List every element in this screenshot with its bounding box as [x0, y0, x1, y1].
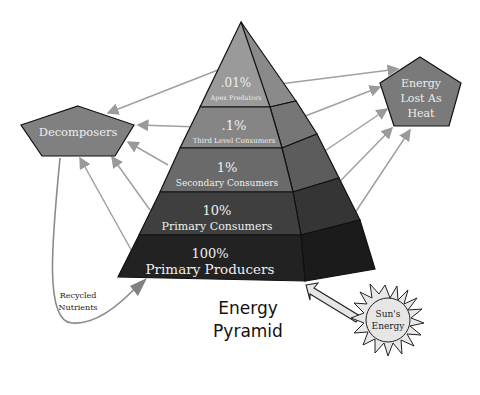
recycled-arrowhead: [130, 278, 147, 296]
sun-energy-arrow: [306, 283, 360, 322]
sun-icon: [351, 284, 424, 356]
level-3-percent: 1%: [217, 160, 238, 175]
level-3-label: Secondary Consumers: [176, 178, 279, 188]
decomposers-label: Decomposers: [39, 125, 118, 139]
sun-label-line1: Sun's: [376, 309, 401, 319]
level-2-label: Third Level Consumers: [193, 137, 276, 145]
pyramid: [118, 22, 375, 281]
recycled-line1: Recycled: [60, 291, 97, 300]
level-5-percent: 100%: [191, 246, 228, 261]
level-1-label: Apex Predators: [210, 94, 262, 102]
level-5-label: Primary Producers: [145, 261, 274, 277]
level-4-label: Primary Consumers: [162, 220, 273, 233]
heat-label-line3: Heat: [407, 107, 435, 120]
energy-pyramid-diagram: .01% Apex Predators .1% Third Level Cons…: [0, 0, 480, 395]
sun-label-line2: Energy: [372, 321, 406, 331]
diagram-title-line1: Energy: [218, 298, 278, 318]
heat-label-line2: Lost As: [400, 92, 441, 105]
heat-label-line1: Energy: [401, 77, 442, 90]
level-1-percent: .01%: [221, 76, 252, 90]
level-4-percent: 10%: [203, 203, 232, 218]
diagram-title-line2: Pyramid: [213, 321, 283, 341]
level-2-percent: .1%: [222, 118, 247, 133]
recycled-line2: Nutrients: [59, 303, 98, 312]
